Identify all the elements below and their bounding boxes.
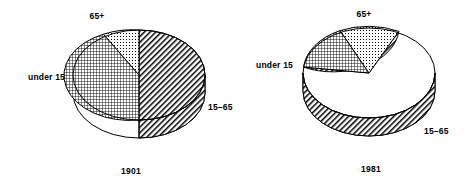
pie-chart-1901: 65+ under 15 15–65 1901 — [28, 11, 233, 176]
pie-1981-label-65-plus: 65+ — [356, 9, 371, 19]
pie-chart-figure: 65+ under 15 15–65 1901 65+ under 15 15–… — [0, 0, 475, 184]
pie-1901-label-15-65: 15–65 — [208, 102, 233, 112]
pie-1901-label-65-plus: 65+ — [89, 11, 104, 21]
pie-1901-year-label: 1901 — [121, 166, 141, 176]
pie-1981-label-15-65: 15–65 — [424, 126, 449, 136]
pie-chart-1981: 65+ under 15 15–65 1981 — [256, 9, 449, 174]
pie-1981-year-label: 1981 — [361, 164, 381, 174]
pie-1981-label-under-15: under 15 — [256, 60, 293, 70]
pie-1981-wall-15-65 — [303, 73, 435, 136]
pie-1901-label-under-15: under 15 — [28, 72, 65, 82]
figure-canvas: 65+ under 15 15–65 1901 65+ under 15 15–… — [0, 0, 475, 184]
